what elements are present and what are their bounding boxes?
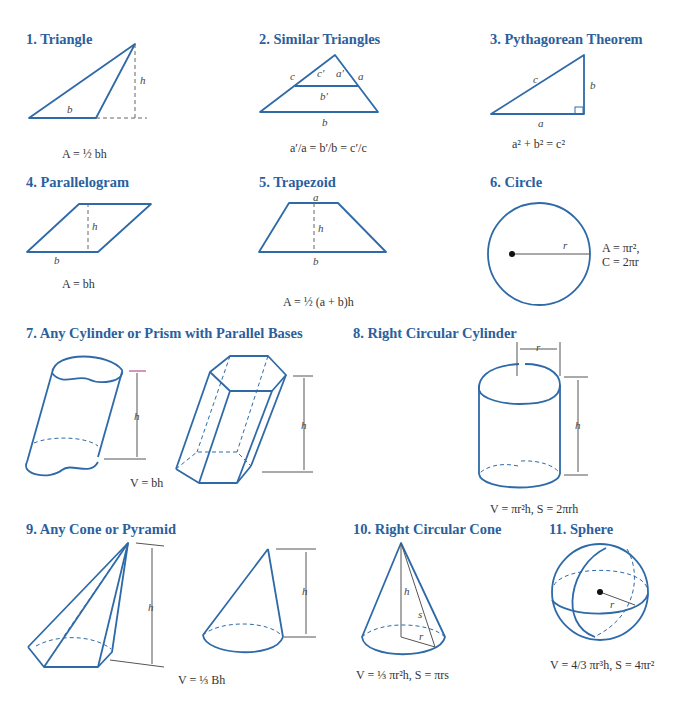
label-h: h (140, 74, 146, 86)
svg-text:b: b (322, 116, 328, 128)
svg-text:h: h (148, 601, 154, 613)
oblique-cylinder-shape (26, 357, 122, 476)
svg-text:h: h (92, 220, 98, 232)
svg-text:h: h (302, 585, 308, 597)
svg-text:c′: c′ (317, 67, 325, 79)
svg-text:r: r (536, 341, 541, 353)
svg-text:b′: b′ (320, 90, 329, 102)
hexagonal-prism-shape (176, 356, 286, 483)
svg-text:a: a (313, 191, 319, 203)
svg-text:h: h (134, 410, 140, 422)
svg-text:a: a (358, 70, 364, 82)
similar-triangles-shape (260, 55, 378, 112)
pyramid-shape (28, 543, 128, 667)
svg-text:r: r (419, 630, 424, 642)
parallelogram-shape (27, 204, 151, 252)
svg-text:a: a (538, 117, 544, 129)
svg-text:r: r (563, 239, 568, 251)
triangle-shape (29, 44, 135, 118)
svg-text:a′: a′ (336, 67, 345, 79)
svg-text:b: b (54, 254, 60, 266)
cone-shape (203, 549, 283, 652)
svg-text:h: h (404, 585, 410, 597)
geometry-figures: b h c c′ a′ a b′ b c b a h b a h b r h h… (0, 0, 675, 704)
label-b: b (67, 103, 73, 115)
svg-text:s: s (418, 608, 422, 620)
svg-text:c: c (290, 70, 295, 82)
svg-text:h: h (575, 419, 581, 431)
svg-text:b: b (590, 79, 596, 91)
svg-text:h: h (318, 222, 324, 234)
right-cylinder-shape (479, 364, 560, 488)
svg-text:b: b (313, 255, 319, 267)
svg-text:h: h (301, 419, 307, 431)
svg-text:c: c (533, 73, 538, 85)
svg-text:r: r (610, 598, 615, 610)
